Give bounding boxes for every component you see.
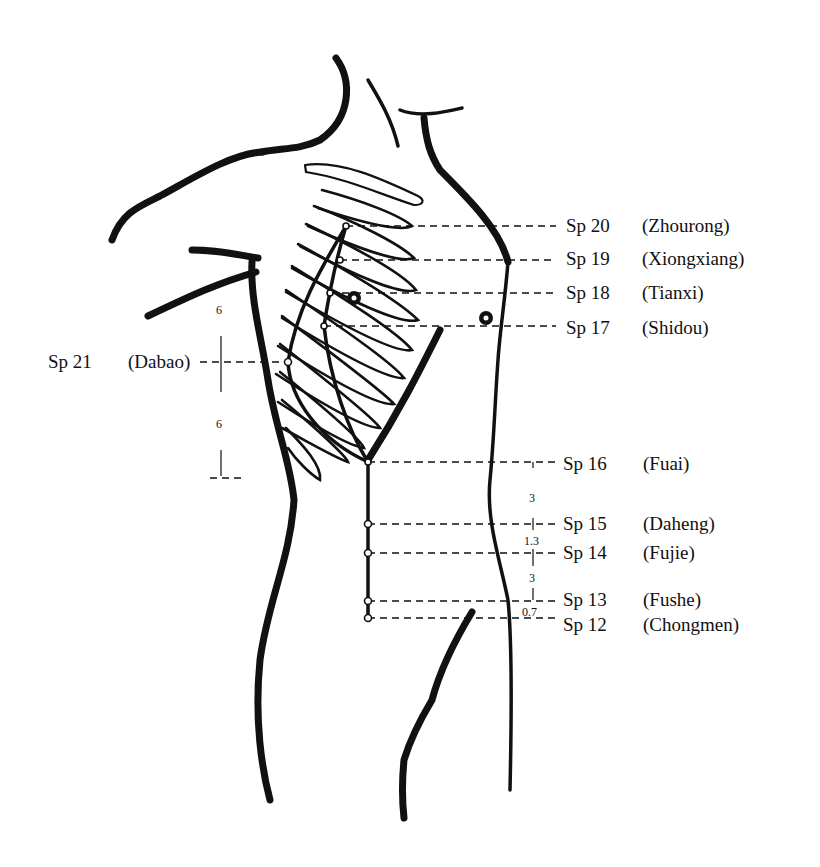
point-sp18 [327,290,333,296]
label-sp18: Sp 18(Tianxi) [566,283,704,302]
point-name: (Tianxi) [642,283,704,302]
neck-left-outline [262,58,347,152]
measure-side-lower-value: 6 [216,418,222,430]
point-name: (Fujie) [643,543,695,562]
point-code: Sp 15 [563,514,643,533]
point-code: Sp 14 [563,543,643,562]
label-sp17: Sp 17(Shidou) [566,318,709,337]
point-sp19 [337,257,343,263]
point-sp12 [365,615,372,622]
point-sp20 [343,223,349,229]
point-code: Sp 19 [566,249,642,268]
point-sp14 [365,550,372,557]
neck-right-outline [424,118,508,262]
point-sp17 [321,323,327,329]
point-sp15 [365,521,372,528]
point-sp21 [285,359,292,366]
label-sp14: Sp 14(Fujie) [563,543,695,562]
point-code: Sp 13 [563,590,643,609]
measure-side-upper-value: 6 [216,304,222,316]
shoulder-outline [112,152,262,240]
point-sp13 [365,598,372,605]
point-code: Sp 17 [566,318,642,337]
label-sp12: Sp 12(Chongmen) [563,615,739,634]
point-name: (Fuai) [643,454,689,473]
measure-abd-13-12-value: 0.7 [522,606,537,618]
label-sp20: Sp 20(Zhourong) [566,216,730,235]
label-sp15: Sp 15(Daheng) [563,514,715,533]
point-code: Sp 18 [566,283,642,302]
point-name: (Chongmen) [643,615,739,634]
point-name: (Shidou) [642,318,709,337]
label-sp19: Sp 19(Xiongxiang) [566,249,744,268]
point-code: Sp 16 [563,454,643,473]
point-name: (Daheng) [643,514,715,533]
nipple-left-center [352,296,357,301]
left-torso-outline [252,262,294,800]
measure-abd-16-15-value: 3 [529,492,535,504]
groin-outline [403,612,473,818]
label-sp13: Sp 13(Fushe) [563,590,701,609]
point-name: (Dabao) [128,352,190,371]
right-torso-outline [489,262,511,790]
label-sp16: Sp 16(Fuai) [563,454,689,473]
nipple-right-center [484,316,489,321]
clavicle [305,164,423,205]
jaw-outline [400,108,462,114]
point-name: (Fushe) [643,590,701,609]
point-code: Sp 21 [48,352,128,371]
point-code: Sp 12 [563,615,643,634]
arm-upper-outline [192,250,258,258]
point-name: (Xiongxiang) [642,249,744,268]
point-name: (Zhourong) [642,216,730,235]
point-code: Sp 20 [566,216,642,235]
neck-right-shadow [368,80,398,146]
measure-abd-15-14-value: 1.3 [524,535,539,547]
measure-abd-14-13-value: 3 [529,572,535,584]
torso-illustration [0,0,820,867]
point-sp16 [365,459,371,465]
rib-cage [276,190,418,480]
label-sp21: Sp 21(Dabao) [48,352,190,371]
arm-lower-outline [148,272,256,316]
